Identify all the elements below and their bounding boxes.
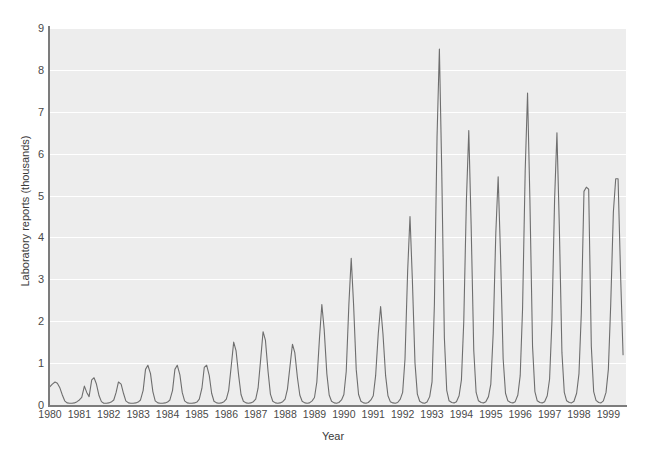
chart-figure: 0123456789 19801981198219831984198519861… bbox=[0, 0, 666, 457]
y-axis-title: Laboratory reports (thousands) bbox=[19, 111, 31, 311]
x-tick-label-1999: 1999 bbox=[588, 409, 628, 420]
y-axis-title-wrap: Laboratory reports (thousands) bbox=[0, 0, 20, 457]
series-line-laboratory-reports bbox=[50, 28, 626, 405]
x-axis-title: Year bbox=[0, 430, 666, 442]
x-axis-line bbox=[48, 405, 627, 407]
x-axis-tick-labels: 1980198119821983198419851986198719881989… bbox=[0, 409, 666, 427]
plot-area bbox=[50, 28, 626, 405]
y-axis-line bbox=[48, 26, 50, 407]
